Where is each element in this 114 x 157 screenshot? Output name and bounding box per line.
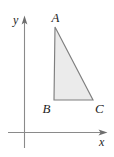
coordinate-plane-figure: A B C y x — [0, 0, 114, 157]
vertex-label-c: C — [95, 101, 104, 116]
vertex-label-b: B — [43, 101, 51, 116]
triangle-abc — [54, 27, 93, 100]
x-axis-label: x — [98, 135, 105, 149]
figure-canvas: A B C y x — [0, 0, 114, 157]
vertex-label-a: A — [51, 10, 60, 25]
y-axis — [22, 16, 28, 149]
y-axis-label: y — [12, 13, 19, 27]
x-axis — [8, 130, 108, 136]
